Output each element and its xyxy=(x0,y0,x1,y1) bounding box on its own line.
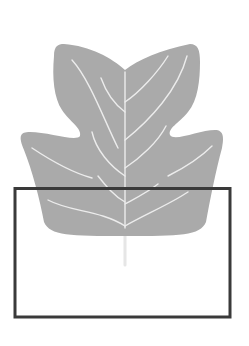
leaf-illustration xyxy=(0,0,249,346)
